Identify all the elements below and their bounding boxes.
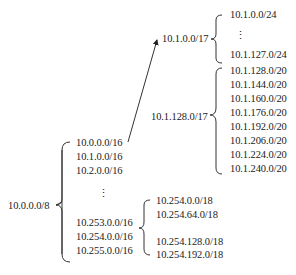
ellipsis: ⋮ (98, 188, 109, 200)
upper-item: 10.1.0.0/24 (230, 9, 276, 21)
upper-label: 10.1.0.0/17 (162, 33, 208, 45)
level1-item: 10.2.0.0/16 (76, 165, 122, 177)
lower-item: 10.1.224.0/20 (230, 149, 287, 161)
lower-item: 10.1.240.0/20 (230, 163, 287, 175)
item-10-254: 10.254.128.0/18 (156, 236, 223, 248)
lower-item: 10.1.206.0/20 (230, 135, 287, 147)
lower-label: 10.1.128.0/17 (151, 111, 208, 123)
lower-item: 10.1.160.0/20 (230, 93, 287, 105)
upper-item: 10.1.127.0/24 (230, 49, 287, 61)
ellipsis: ⋮ (235, 30, 246, 42)
brace-10-254 (139, 200, 150, 255)
item-10-254: 10.254.64.0/18 (156, 209, 218, 221)
level1-item: 10.1.0.0/16 (76, 151, 122, 163)
item-10-254: 10.254.0.0/18 (156, 195, 213, 207)
arrow (128, 40, 157, 142)
root-label: 10.0.0.0/8 (8, 200, 49, 212)
item-10-254: 10.254.192.0/18 (156, 249, 223, 261)
root-brace (56, 142, 70, 262)
level1-item: 10.254.0.0/16 (76, 231, 133, 243)
upper-brace (211, 15, 222, 63)
level1-item: 10.253.0.0/16 (76, 217, 133, 229)
lower-item: 10.1.176.0/20 (230, 107, 287, 119)
level1-item: 10.255.0.0/16 (76, 245, 133, 257)
lower-item: 10.1.144.0/20 (230, 79, 287, 91)
level1-item: 10.0.0.0/16 (76, 137, 122, 149)
lower-brace (210, 68, 222, 174)
lower-item: 10.1.192.0/20 (230, 121, 287, 133)
lower-item: 10.1.128.0/20 (230, 65, 287, 77)
